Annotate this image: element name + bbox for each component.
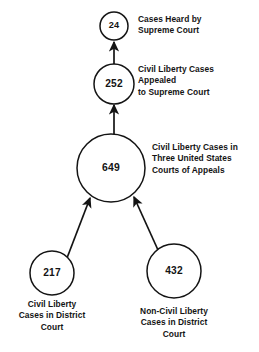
arrow-district-noncivil-to-appeals: [134, 197, 158, 250]
node-label-appealed-supreme-court: Civil Liberty Cases Appealed to Supreme …: [138, 64, 257, 98]
node-label-district-court-non-civil-liberty: Non-Civil Liberty Cases in District Cour…: [114, 306, 234, 340]
arrow-district-civil-to-appeals: [67, 198, 90, 258]
node-label-supreme-court-heard: Cases Heard by Supreme Court: [138, 14, 257, 37]
node-value-courts-of-appeals: 649: [71, 162, 151, 173]
node-value-district-court-non-civil-liberty: 432: [134, 265, 214, 276]
node-label-district-court-civil-liberty: Civil Liberty Cases in District Court: [0, 299, 112, 333]
flowchart-diagram: 24252649217432 Cases Heard by Supreme Co…: [0, 0, 259, 352]
node-value-district-court-civil-liberty: 217: [12, 267, 92, 278]
node-label-courts-of-appeals: Civil Liberty Cases in Three United Stat…: [152, 142, 257, 176]
